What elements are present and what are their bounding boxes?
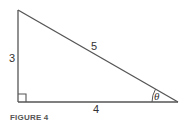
label-horizontal: 4: [93, 103, 99, 115]
triangle: [18, 10, 178, 102]
label-vertical: 3: [9, 52, 15, 64]
label-theta: θ: [154, 90, 160, 102]
figure-caption: FIGURE 4: [10, 113, 49, 122]
label-hypotenuse: 5: [91, 40, 97, 52]
right-triangle-diagram: 3 5 4 θ: [0, 0, 181, 130]
hypotenuse: [18, 10, 178, 102]
right-angle-marker: [18, 94, 26, 102]
